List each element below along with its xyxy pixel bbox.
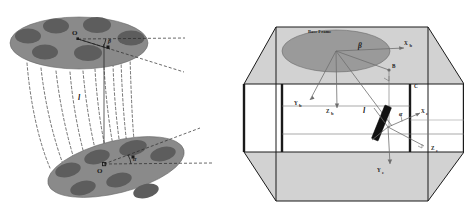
end-z-axis-subscript: e bbox=[436, 148, 438, 153]
cable-line bbox=[113, 64, 121, 152]
upper-origin-label: O bbox=[72, 29, 78, 37]
end-x-axis-subscript: e bbox=[426, 111, 428, 116]
upper-angle-vertex-marker bbox=[107, 46, 110, 49]
lower-origin-label: O bbox=[97, 167, 103, 175]
lower-platform-group bbox=[42, 125, 190, 209]
platform-hole bbox=[74, 45, 102, 61]
base-y-axis-subscript: b bbox=[299, 103, 302, 108]
point-c-label: C bbox=[414, 83, 418, 89]
base-y-axis-label: Y bbox=[294, 100, 298, 106]
left-diagram-panel: O β l O α bbox=[0, 0, 232, 213]
platform-hole bbox=[15, 29, 41, 44]
end-y-axis-label: Y bbox=[377, 167, 381, 173]
cable-line bbox=[27, 63, 50, 168]
platform-hole bbox=[83, 17, 111, 33]
end-y-axis-subscript: e bbox=[382, 170, 384, 175]
point-b-label: B bbox=[392, 63, 396, 69]
base-x-axis-label: X bbox=[404, 40, 408, 46]
upper-origin-marker bbox=[76, 37, 79, 40]
end-alpha-angle-label: α bbox=[399, 111, 403, 117]
end-z-axis-label: Z bbox=[431, 145, 435, 151]
cable-line bbox=[130, 57, 134, 140]
separation-length-label: l bbox=[78, 93, 81, 102]
end-x-axis-label: X bbox=[421, 108, 425, 114]
base-z-axis-subscript: b bbox=[331, 111, 334, 116]
cable-line bbox=[41, 68, 66, 172]
platform-hole bbox=[43, 19, 69, 34]
cable-line bbox=[121, 60, 127, 145]
base-beta-angle-label: β bbox=[357, 41, 362, 50]
bottom-plane bbox=[244, 152, 464, 201]
platform-hole bbox=[32, 45, 58, 60]
platform-hole bbox=[118, 31, 145, 46]
right-diagram-panel: Base Frame X b Y b Z b β l B C bbox=[232, 0, 464, 213]
base-x-axis-subscript: b bbox=[410, 43, 413, 48]
end-z-axis bbox=[388, 127, 424, 146]
base-z-axis-label: Z bbox=[326, 108, 330, 114]
cable-length-label: l bbox=[363, 106, 366, 115]
figure-root: O β l O α bbox=[0, 0, 464, 213]
upper-platform-group bbox=[10, 17, 148, 69]
base-frame-label: Base Frame bbox=[308, 29, 331, 34]
